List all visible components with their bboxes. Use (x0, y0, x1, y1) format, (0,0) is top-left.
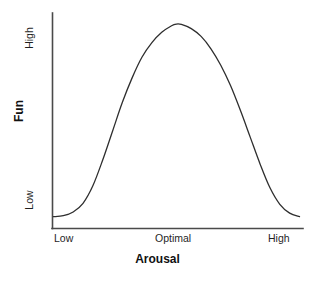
x-tick-label-low: Low (54, 233, 73, 244)
data-curve-fun-arousal (54, 24, 300, 217)
x-tick-label-high: High (268, 233, 290, 244)
y-tick-label-low: Low (24, 184, 36, 216)
chart-figure: High Low Low Optimal High Fun Arousal (0, 0, 315, 281)
y-axis-title: Fun (13, 89, 27, 133)
x-axis-title: Arousal (0, 253, 315, 265)
y-tick-label-high: High (24, 21, 36, 55)
x-tick-label-optimal: Optimal (155, 233, 191, 244)
